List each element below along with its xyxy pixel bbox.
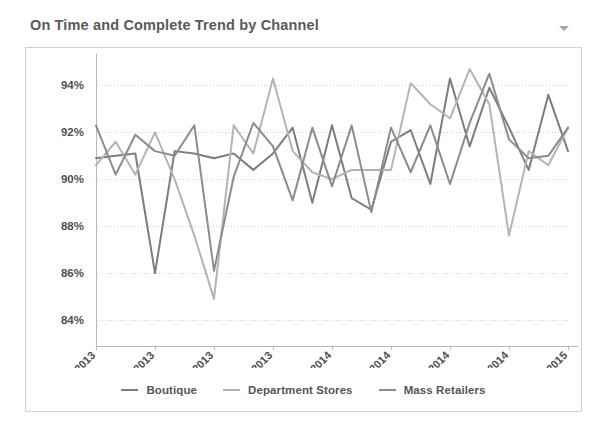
y-axis-tick-label: 86% (61, 267, 84, 279)
plot-area: 84%86%88%90%92%94%Jan-2013Apr-2013Jul-20… (26, 48, 581, 368)
legend-color-swatch (223, 389, 240, 391)
legend-item-mass-retailers[interactable]: Mass Retailers (379, 384, 486, 396)
legend-label: Boutique (146, 384, 197, 396)
y-axis-tick-label: 92% (61, 126, 84, 138)
x-axis-tick-label: Jan-2013 (56, 349, 98, 368)
x-axis-tick-label: Oct-2014 (469, 348, 511, 368)
y-axis-tick-label: 88% (61, 220, 84, 232)
chevron-down-icon (559, 26, 569, 31)
y-axis-tick-label: 90% (61, 173, 84, 185)
legend-item-boutique[interactable]: Boutique (121, 384, 197, 396)
legend-item-department-stores[interactable]: Department Stores (223, 384, 353, 396)
page-title: On Time and Complete Trend by Channel (30, 16, 319, 34)
x-axis-tick-label: Jul-2014 (412, 348, 452, 368)
legend-color-swatch (379, 389, 396, 391)
series-line-mass-retailers (96, 74, 568, 271)
legend-label: Department Stores (248, 384, 353, 396)
legend-color-swatch (121, 389, 138, 391)
x-axis-tick-label: Jul-2013 (176, 349, 216, 368)
chart-legend: Boutique Department Stores Mass Retailer… (26, 369, 581, 411)
line-chart: 84%86%88%90%92%94%Jan-2013Apr-2013Jul-20… (26, 48, 581, 368)
chart-widget: On Time and Complete Trend by Channel 84… (0, 0, 609, 437)
widget-header: On Time and Complete Trend by Channel (30, 16, 579, 42)
chart-card: 84%86%88%90%92%94%Jan-2013Apr-2013Jul-20… (25, 47, 582, 412)
y-axis-tick-label: 84% (61, 314, 84, 326)
x-axis-tick-label: Jan-2015 (528, 349, 570, 368)
y-axis-tick-label: 94% (61, 79, 84, 91)
legend-label: Mass Retailers (404, 384, 486, 396)
widget-menu-button[interactable] (557, 21, 571, 35)
x-axis-tick-label: Oct-2013 (233, 349, 274, 368)
x-axis-tick-label: Apr-2014 (351, 348, 393, 368)
x-axis-tick-label: Jan-2014 (292, 348, 334, 368)
x-axis-tick-label: Apr-2013 (115, 349, 157, 368)
series-line-boutique (96, 78, 568, 273)
